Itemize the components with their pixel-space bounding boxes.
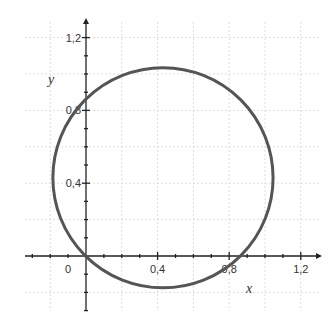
x-axis-label: x (245, 281, 253, 296)
circle-chart: 00,40,81,20,40,81,2 x y (0, 0, 333, 315)
x-tick-label: 0,4 (150, 263, 165, 275)
tick-labels: 00,40,81,20,40,81,2 (65, 32, 309, 275)
x-tick-label: 1,2 (293, 263, 308, 275)
y-axis-label: y (46, 72, 55, 87)
ticks (32, 38, 301, 311)
y-tick-label: 0,4 (66, 177, 81, 189)
y-axis-arrow-icon (83, 18, 89, 24)
x-tick-label: 0 (65, 263, 71, 275)
y-tick-label: 1,2 (66, 32, 81, 44)
x-axis-arrow-icon (316, 253, 322, 259)
